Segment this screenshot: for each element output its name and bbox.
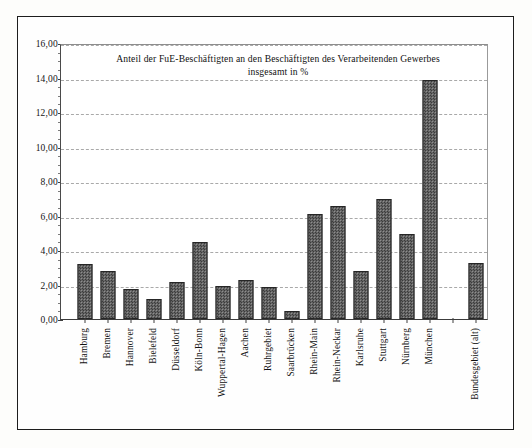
x-axis-label-hannover: Hannover [125, 328, 135, 366]
x-axis-label-stuttgart: Stuttgart [378, 328, 388, 362]
bar-slot [74, 45, 97, 319]
x-axis-label-karlsruhe: Karlsruhe [355, 328, 365, 366]
x-label-slot: Bielefeld [142, 320, 165, 430]
y-tick-label: 6,00 [20, 212, 58, 222]
bar-slot [350, 45, 373, 319]
bar[interactable] [147, 299, 162, 319]
x-label-slot: Bremen [96, 320, 119, 430]
x-axis-label-aachen: Aachen [240, 328, 250, 358]
x-axis-label-rhein-neckar: Rhein-Neckar [332, 328, 342, 382]
bar[interactable] [423, 80, 438, 319]
bar-slot [304, 45, 327, 319]
x-label-slot: Bundesgebiet (alt) [464, 320, 487, 430]
bar-slot [419, 45, 442, 319]
x-label-slot: Hannover [119, 320, 142, 430]
bar[interactable] [101, 271, 116, 319]
bar[interactable] [469, 263, 484, 319]
x-axis-label-hamburg: Hamburg [79, 328, 89, 364]
y-tick-label: 2,00 [20, 281, 58, 291]
bar-slot [97, 45, 120, 319]
x-axis-label-rhein-main: Rhein-Main [309, 328, 319, 375]
bar-slot [465, 45, 488, 319]
bar-slot [166, 45, 189, 319]
y-tick-label: 10,00 [20, 143, 58, 153]
bar[interactable] [216, 286, 231, 319]
bar[interactable] [377, 199, 392, 319]
bar-slot [143, 45, 166, 319]
y-tick-label: 4,00 [20, 246, 58, 256]
plot-area: Anteil der FuE-Beschäftigten an den Besc… [60, 44, 488, 320]
bar[interactable] [308, 214, 323, 319]
x-axis-label-ruhrgebiet: Ruhrgebiet [263, 328, 273, 371]
x-axis-label-bielefeld: Bielefeld [148, 328, 158, 364]
bar[interactable] [400, 234, 415, 319]
x-axis-label-wuppertal-hagen: Wuppertal-Hagen [217, 328, 227, 397]
x-label-slot: Ruhrgebiet [257, 320, 280, 430]
bar-chart: 0,002,004,006,008,0010,0012,0014,0016,00… [18, 17, 515, 431]
y-tick-label: 0,00 [20, 315, 58, 325]
x-axis-label-d-sseldorf: Düsseldorf [171, 328, 181, 371]
y-tick-label: 16,00 [20, 39, 58, 49]
x-label-slot: München [418, 320, 441, 430]
x-label-slot: Karlsruhe [349, 320, 372, 430]
y-tick-label: 8,00 [20, 177, 58, 187]
bar-slot [235, 45, 258, 319]
bar[interactable] [78, 264, 93, 319]
bar-slot [327, 45, 350, 319]
x-label-slot: Wuppertal-Hagen [211, 320, 234, 430]
x-label-slot: Hamburg [73, 320, 96, 430]
bar-slot [373, 45, 396, 319]
bar[interactable] [354, 271, 369, 319]
figure-frame: 0,002,004,006,008,0010,0012,0014,0016,00… [17, 16, 514, 430]
y-tick-label: 12,00 [20, 108, 58, 118]
bar-slot [258, 45, 281, 319]
x-axis-label-bundesgebiet-alt: Bundesgebiet (alt) [470, 328, 480, 400]
x-label-slot: Rhein-Neckar [326, 320, 349, 430]
bar[interactable] [262, 287, 277, 319]
x-axis-label-saarbr-cken: Saarbrücken [286, 328, 296, 377]
x-axis-label-n-rnberg: Nürnberg [401, 328, 411, 365]
bar-slot [189, 45, 212, 319]
x-axis-label-m-nchen: München [424, 328, 434, 364]
x-label-slot: Köln-Bonn [188, 320, 211, 430]
x-label-slot: Düsseldorf [165, 320, 188, 430]
bar[interactable] [170, 282, 185, 319]
x-label-slot: Nürnberg [395, 320, 418, 430]
bar-slot [120, 45, 143, 319]
bar-series [61, 45, 487, 319]
x-axis-label-k-ln-bonn: Köln-Bonn [194, 328, 204, 372]
scanned-page: 0,002,004,006,008,0010,0012,0014,0016,00… [0, 0, 532, 448]
bar[interactable] [124, 289, 139, 319]
y-axis: 0,002,004,006,008,0010,0012,0014,0016,00 [18, 44, 58, 320]
x-label-slot: Saarbrücken [280, 320, 303, 430]
bar[interactable] [239, 280, 254, 319]
bar-slot [396, 45, 419, 319]
bar[interactable] [331, 206, 346, 319]
x-axis-label-bremen: Bremen [102, 328, 112, 359]
bar-slot [212, 45, 235, 319]
x-label-slot: Aachen [234, 320, 257, 430]
bar-slot [281, 45, 304, 319]
x-axis-labels: HamburgBremenHannoverBielefeldDüsseldorf… [60, 320, 488, 430]
y-tick-label: 14,00 [20, 74, 58, 84]
bar-slot-empty [442, 45, 465, 319]
x-label-slot: Rhein-Main [303, 320, 326, 430]
bar[interactable] [193, 242, 208, 319]
x-label-slot: Stuttgart [372, 320, 395, 430]
